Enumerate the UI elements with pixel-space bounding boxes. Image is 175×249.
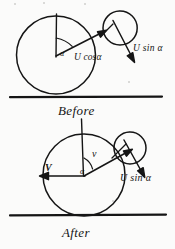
before-usin-arrow-head (127, 53, 134, 63)
before-vertical-line (56, 14, 57, 57)
before-angle-arc (56, 38, 72, 46)
label-u-cos-alpha: U cosα (74, 53, 102, 63)
diagram-canvas (0, 0, 175, 249)
after-V-arrow-head (40, 172, 49, 179)
label-angle-alpha-top: α (60, 50, 64, 58)
label-u-sin-alpha-bottom: U sin α (120, 173, 151, 183)
after-ground-line (10, 215, 166, 216)
caption-before: Before (58, 104, 95, 117)
label-angle-alpha-bottom: α (80, 168, 84, 176)
sketch-page: U cosα U sin α α Before V v α U sin α Af… (0, 0, 175, 249)
before-ground-line (10, 97, 162, 98)
label-velocity-v: v (92, 149, 96, 159)
after-diagram (10, 119, 166, 216)
caption-after: After (62, 226, 90, 239)
after-small-circle (114, 132, 146, 164)
label-velocity-V: V (45, 163, 52, 173)
label-u-sin-alpha-top: U sin α (133, 44, 163, 54)
after-angle-arc (84, 158, 93, 169)
